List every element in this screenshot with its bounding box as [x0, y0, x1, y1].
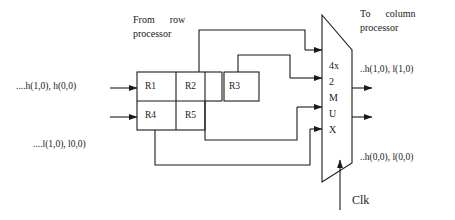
- mux-label-line-4: X: [329, 124, 336, 137]
- output-label-low: ..h(0,0), l(0,0): [360, 152, 413, 164]
- wire-r4-to-mux: [155, 129, 310, 165]
- register-label-r3: R3: [229, 81, 240, 93]
- output-label-high: ..h(1,0), l(1,0): [360, 64, 413, 76]
- wire-r3-to-mux: [238, 55, 290, 78]
- from-row-processor-label-line2: processor: [133, 28, 171, 41]
- mux-label-line-2: M: [329, 92, 338, 105]
- register-label-r4: R4: [145, 110, 156, 122]
- mux-label-line-0: 4x: [329, 60, 339, 73]
- wire-r5-to-mux: [205, 107, 297, 140]
- input-label-low: ....l(1,0), l0,0): [33, 139, 86, 151]
- input-label-high: ....h(1,0), h(0,0): [16, 81, 76, 93]
- clock-label: Clk: [352, 193, 369, 208]
- from-row-processor-label-line1: From row: [133, 14, 185, 27]
- mux-label-line-1: 2: [329, 76, 334, 89]
- register-label-r5: R5: [185, 110, 196, 122]
- register-label-r1: R1: [145, 81, 156, 93]
- to-column-processor-label-line2: processor: [360, 22, 398, 35]
- register-label-r2: R2: [185, 81, 196, 93]
- mux-label-line-3: U: [329, 108, 336, 121]
- block-diagram: From row processor To column processor .…: [0, 0, 455, 220]
- to-column-processor-label-line1: To column: [360, 8, 415, 21]
- wire-r2-to-mux-top: [199, 30, 305, 72]
